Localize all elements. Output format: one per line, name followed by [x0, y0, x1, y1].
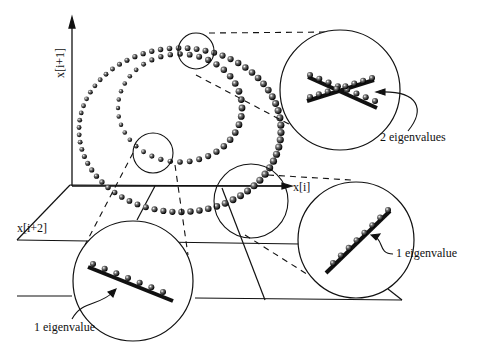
- orbit-bead: [205, 153, 211, 159]
- orbit-bead: [330, 260, 336, 266]
- orbit-bead: [77, 118, 82, 123]
- orbit-bead: [148, 284, 154, 290]
- orbit-bead: [369, 75, 375, 81]
- orbit-bead: [334, 86, 340, 92]
- orbit-bead: [269, 93, 276, 100]
- orbit-bead: [141, 149, 146, 154]
- orbit-bead: [137, 280, 143, 286]
- orbit-bead: [119, 122, 123, 126]
- orbit-bead: [151, 206, 157, 212]
- orbit-bead: [194, 46, 200, 52]
- orbit-bead: [307, 72, 313, 78]
- orbit-bead: [203, 48, 209, 54]
- orbit-bead: [187, 208, 193, 214]
- orbit-bead: [221, 143, 227, 149]
- orbit-bead: [104, 72, 109, 77]
- orbit-bead: [232, 129, 239, 136]
- x-axis-label: x[i]: [293, 180, 310, 194]
- orbit-bead: [141, 62, 146, 67]
- orbit-bead: [261, 171, 268, 178]
- orbit-bead: [242, 64, 248, 70]
- orbit-bead: [169, 209, 175, 215]
- orbit-bead: [307, 94, 313, 100]
- orbit-bead: [196, 156, 202, 162]
- orbit-bead: [143, 204, 149, 210]
- orbit-bead: [149, 154, 154, 159]
- orbit-bead: [117, 114, 121, 118]
- orbit-bead: [116, 106, 120, 110]
- orbit-bead: [82, 154, 87, 159]
- orbit-bead: [177, 159, 183, 165]
- callout-label-top: 2 eigenvalues: [380, 130, 446, 144]
- orbit-bead: [360, 78, 366, 84]
- orbit-bead: [94, 174, 99, 179]
- orbit-bead: [227, 56, 233, 62]
- orbit-bead: [127, 198, 133, 204]
- orbit-bead: [385, 207, 391, 213]
- orbit-bead: [369, 222, 375, 228]
- orbit-bead: [88, 90, 93, 95]
- orbit-bead: [158, 47, 163, 52]
- orbit-bead: [239, 105, 246, 112]
- orbit-bead: [222, 200, 229, 207]
- orbit-bead: [227, 136, 234, 143]
- orbit-bead: [244, 187, 251, 194]
- orbit-bead: [196, 54, 202, 60]
- orbit-bead: [377, 215, 383, 221]
- orbit-bead: [273, 151, 280, 158]
- orbit-bead: [90, 261, 96, 267]
- orbit-bead: [232, 80, 239, 87]
- orbit-bead: [372, 98, 378, 104]
- orbit-bead: [132, 54, 137, 59]
- orbit-bead: [102, 266, 108, 272]
- orbit-bead: [338, 252, 344, 258]
- orbit-bead: [158, 54, 163, 59]
- orbit-bead: [354, 237, 360, 243]
- orbit-bead: [219, 53, 225, 59]
- orbit-bead: [98, 77, 103, 82]
- orbit-bead: [277, 129, 284, 136]
- orbit-bead: [265, 87, 272, 94]
- orbit-bead: [125, 275, 131, 281]
- orbit-bead: [221, 67, 227, 73]
- orbit-bead: [79, 147, 84, 152]
- orbit-bead: [316, 76, 322, 82]
- orbit-bead: [235, 60, 241, 66]
- z-axis-label: x[i+2]: [17, 221, 47, 235]
- orbit-bead: [260, 80, 267, 87]
- orbit-bead: [275, 107, 282, 114]
- orbit-bead: [119, 194, 125, 200]
- attractor-orbit: [77, 45, 285, 215]
- orbit-bead: [149, 57, 154, 62]
- orbit-bead: [238, 113, 245, 120]
- orbit-bead: [117, 97, 121, 101]
- orbit-bead: [110, 67, 115, 72]
- orbit-bead: [270, 158, 277, 165]
- orbit-bead: [250, 182, 257, 189]
- orbit-bead: [124, 58, 129, 63]
- orbit-bead: [185, 45, 191, 51]
- orbit-bead: [196, 207, 203, 214]
- orbit-bead: [187, 52, 193, 58]
- orbit-bead: [167, 46, 173, 52]
- orbit-bead: [325, 89, 331, 95]
- orbit-bead: [78, 140, 83, 145]
- orbit-bead: [113, 270, 119, 276]
- orbit-bead: [205, 205, 212, 212]
- orbit-bead: [93, 83, 98, 88]
- orbit-bead: [149, 49, 154, 54]
- orbit-bead: [275, 144, 282, 151]
- neighborhood-left: [133, 133, 173, 173]
- orbit-bead: [141, 51, 146, 56]
- y-axis-arrow-icon: [69, 17, 75, 28]
- orbit-bead: [117, 62, 122, 67]
- orbit-bead: [79, 110, 84, 115]
- orbit-bead: [272, 100, 279, 107]
- y-axis-label: x[i+1]: [53, 48, 67, 78]
- orbit-bead: [236, 121, 243, 128]
- attractor-eigenvalue-diagram: x[i+1] x[i] x[i+2]: [0, 0, 479, 355]
- orbit-bead: [351, 80, 357, 86]
- orbit-bead: [160, 208, 166, 214]
- orbit-bead: [277, 122, 284, 129]
- orbit-bead: [326, 79, 332, 85]
